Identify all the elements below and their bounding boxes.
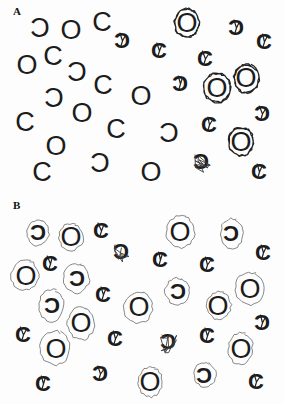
letter-c-glyph: C bbox=[93, 70, 113, 100]
stimulus-letter-o: O bbox=[203, 73, 231, 103]
stimulus-letter-o: O bbox=[11, 260, 39, 291]
stimulus-letter-c: C bbox=[93, 70, 113, 100]
stimulus-reversed-c: C bbox=[193, 149, 210, 174]
letter-o-glyph: O bbox=[139, 367, 160, 397]
stimulus-letter-c: C bbox=[248, 369, 264, 394]
stimulus-letter-o: O bbox=[174, 8, 200, 38]
reversed-c-glyph: C bbox=[90, 148, 110, 178]
stimulus-letter-c: C bbox=[197, 46, 213, 71]
stimulus-letter-o: O bbox=[235, 272, 264, 305]
reversed-c-glyph: C bbox=[44, 293, 60, 318]
letter-c-glyph: C bbox=[32, 157, 52, 187]
stimulus-reversed-c: C bbox=[67, 57, 87, 87]
stimulus-letter-o: O bbox=[71, 98, 92, 128]
stimulus-letter-c: C bbox=[43, 41, 63, 71]
letter-o-glyph: O bbox=[70, 308, 91, 338]
stimulus-reversed-c: C bbox=[159, 118, 179, 148]
stimulus-letter-o: O bbox=[138, 367, 162, 398]
stimulus-letter-o: O bbox=[16, 50, 37, 80]
stimulus-letter-c: C bbox=[255, 240, 271, 265]
stimulus-letter-o: O bbox=[123, 292, 153, 324]
letter-o-glyph: O bbox=[16, 50, 37, 80]
letter-o-glyph: O bbox=[169, 217, 190, 247]
letter-o-glyph: O bbox=[71, 98, 92, 128]
reversed-c-glyph: C bbox=[159, 118, 179, 148]
stimulus-letter-c: C bbox=[106, 114, 126, 144]
stimulus-letter-o: O bbox=[60, 15, 81, 45]
letter-c-glyph: C bbox=[92, 7, 112, 37]
panel-b-stimuli: COCCOCCCCCOCOCCOOCOCCCCCOOCCOCC bbox=[0, 196, 285, 404]
stimulus-letter-c: C bbox=[151, 38, 167, 63]
stimulus-reversed-c: C bbox=[44, 83, 64, 113]
stimulus-letter-o: O bbox=[166, 215, 195, 248]
stimulus-letter-c: C bbox=[15, 107, 35, 137]
stimulus-reversed-c: C bbox=[228, 15, 244, 40]
stimulus-letter-c: C bbox=[201, 112, 217, 137]
panel-a: A COCCOCCOCCCCOCCOCOOCCCCCOOCCCOC bbox=[0, 0, 285, 196]
letter-c-glyph: C bbox=[106, 114, 126, 144]
stimulus-letter-c: C bbox=[35, 371, 51, 396]
stimulus-reversed-c: C bbox=[164, 277, 189, 305]
stimulus-reversed-c: C bbox=[254, 310, 270, 335]
panel-b: B COCCOCCCCCOCOCCOOCOCCCCCOOCCOCC bbox=[0, 196, 285, 404]
stimulus-letter-o: O bbox=[67, 307, 95, 341]
stimulus-letter-o: O bbox=[206, 291, 232, 321]
cancellation-test-figure: A COCCOCCOCCCCOCCOCOOCCCCCOOCCCOC B COCC… bbox=[0, 0, 285, 404]
stimulus-letter-c: C bbox=[42, 251, 58, 276]
letter-o-glyph: O bbox=[45, 334, 66, 364]
letter-o-glyph: O bbox=[239, 274, 260, 304]
letter-c-glyph: C bbox=[43, 41, 63, 71]
letter-o-glyph: O bbox=[140, 157, 161, 187]
stimulus-letter-c: C bbox=[251, 159, 267, 184]
stimulus-reversed-c: C bbox=[27, 220, 50, 247]
stimulus-letter-c: C bbox=[92, 7, 112, 37]
stimulus-letter-o: O bbox=[140, 157, 161, 187]
stimulus-letter-c: C bbox=[95, 282, 111, 307]
stimulus-reversed-c: C bbox=[194, 363, 217, 388]
stimulus-letter-o: O bbox=[233, 63, 259, 93]
stimulus-letter-c: C bbox=[199, 252, 215, 277]
stimulus-letter-c: C bbox=[93, 218, 109, 243]
panel-a-stimuli: COCCOCCOCCCCOCCOCOOCCCCCOOCCCOC bbox=[0, 0, 285, 196]
reversed-c-glyph: C bbox=[30, 13, 50, 43]
stimulus-reversed-c: C bbox=[114, 28, 130, 53]
stimulus-letter-c: C bbox=[107, 326, 123, 351]
reversed-c-glyph: C bbox=[30, 220, 46, 245]
letter-o-glyph: O bbox=[60, 15, 81, 45]
stimulus-letter-o: O bbox=[59, 222, 84, 252]
reversed-c-glyph: C bbox=[223, 221, 239, 246]
stimulus-reversed-c: C bbox=[92, 361, 108, 386]
stimulus-letter-o: O bbox=[228, 332, 253, 364]
letter-o-glyph: O bbox=[128, 292, 149, 322]
stimulus-reversed-c: C bbox=[172, 71, 188, 96]
stimulus-reversed-c: C bbox=[220, 218, 243, 249]
stimulus-reversed-c: C bbox=[160, 329, 177, 354]
stimulus-letter-o: O bbox=[40, 330, 70, 366]
reversed-c-glyph: C bbox=[170, 279, 186, 304]
stimulus-reversed-c: C bbox=[90, 148, 110, 178]
stimulus-letter-o: O bbox=[130, 81, 151, 111]
stimulus-letter-c: C bbox=[199, 323, 215, 348]
stimulus-reversed-c: C bbox=[39, 289, 64, 323]
reversed-c-glyph: C bbox=[44, 83, 64, 113]
reversed-c-glyph: C bbox=[69, 266, 85, 291]
stimulus-reversed-c: C bbox=[64, 264, 90, 294]
letter-o-glyph: O bbox=[130, 81, 151, 111]
stimulus-reversed-c: C bbox=[30, 13, 50, 43]
letter-c-glyph: C bbox=[15, 107, 35, 137]
stimulus-letter-c: C bbox=[15, 322, 31, 347]
reversed-c-glyph: C bbox=[67, 57, 87, 87]
stimulus-reversed-c: C bbox=[254, 101, 270, 126]
stimulus-letter-c: C bbox=[32, 157, 52, 187]
stimulus-reversed-c: C bbox=[113, 239, 129, 264]
stimulus-letter-c: C bbox=[152, 247, 168, 272]
stimulus-letter-o: O bbox=[228, 127, 253, 157]
stimulus-letter-c: C bbox=[256, 29, 272, 54]
